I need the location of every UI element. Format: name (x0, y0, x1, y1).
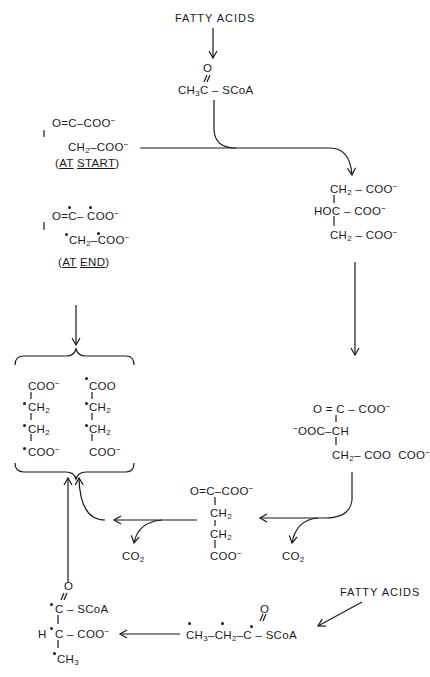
arrow-co2-release-2 (134, 520, 162, 543)
arrow-oxaloacetate-to-citrate (140, 148, 352, 175)
arrow-fatty-acids-to-propionyl (318, 602, 362, 626)
arrow-oxalosuccinate-to-ketoglutarate (260, 472, 352, 518)
fatty-acids-bottom-label: FATTY ACIDS (340, 586, 420, 598)
brace-top (15, 349, 134, 365)
co2-label-left: CO2 (122, 550, 145, 562)
at-end-note: (AT END) (58, 256, 109, 268)
arrow-co2-release-1 (292, 518, 318, 543)
pathway-arrows (0, 0, 430, 677)
arrow-acetyl-coa-merge (214, 100, 236, 148)
arrow-succinate-curve (79, 478, 105, 520)
acetyl-coa-oxygen: O (203, 62, 212, 74)
at-start-note: (AT START) (55, 157, 119, 169)
fatty-acids-top-label: FATTY ACIDS (175, 12, 255, 24)
acetyl-coa-formula: CH3C – SCoA (178, 84, 254, 96)
brace-bottom (15, 463, 134, 479)
co2-label-right: CO2 (282, 550, 305, 562)
